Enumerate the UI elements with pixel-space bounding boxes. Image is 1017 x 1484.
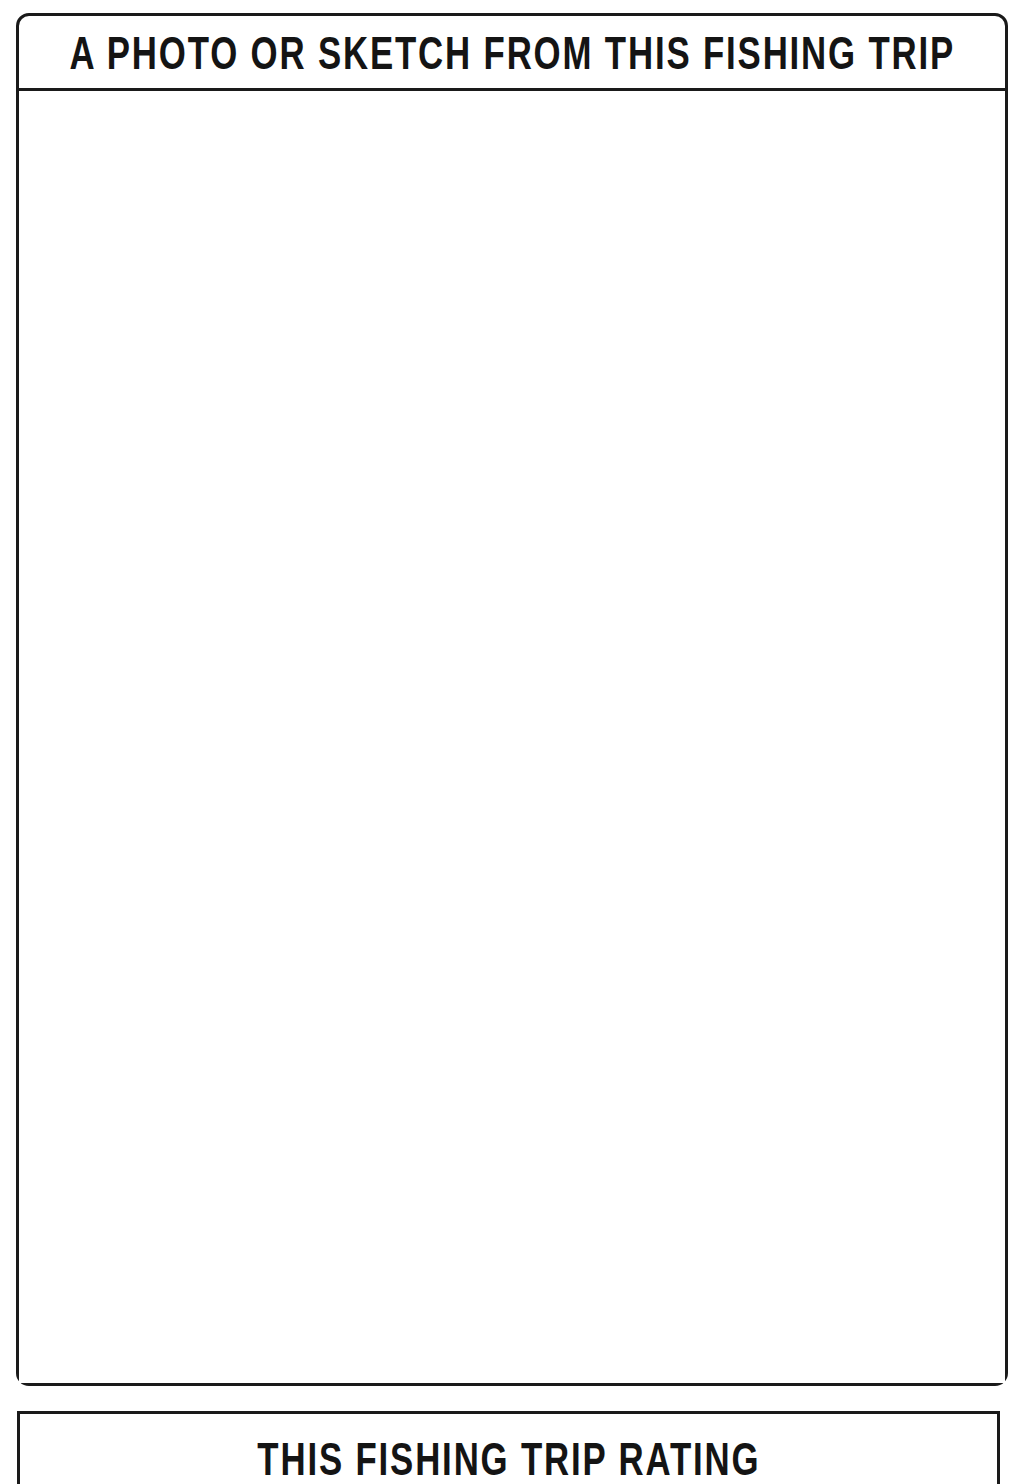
photo-sketch-panel-header: A PHOTO OR SKETCH FROM THIS FISHING TRIP [19, 16, 1005, 91]
photo-sketch-drawing-area[interactable] [19, 91, 1005, 1383]
photo-sketch-panel: A PHOTO OR SKETCH FROM THIS FISHING TRIP [16, 13, 1008, 1386]
trip-rating-panel: THIS FISHING TRIP RATING [17, 1411, 1000, 1484]
journal-page: A PHOTO OR SKETCH FROM THIS FISHING TRIP… [0, 0, 1017, 1484]
trip-rating-panel-header: THIS FISHING TRIP RATING [20, 1435, 997, 1482]
photo-sketch-title: A PHOTO OR SKETCH FROM THIS FISHING TRIP [69, 29, 955, 76]
trip-rating-title: THIS FISHING TRIP RATING [257, 1435, 760, 1482]
